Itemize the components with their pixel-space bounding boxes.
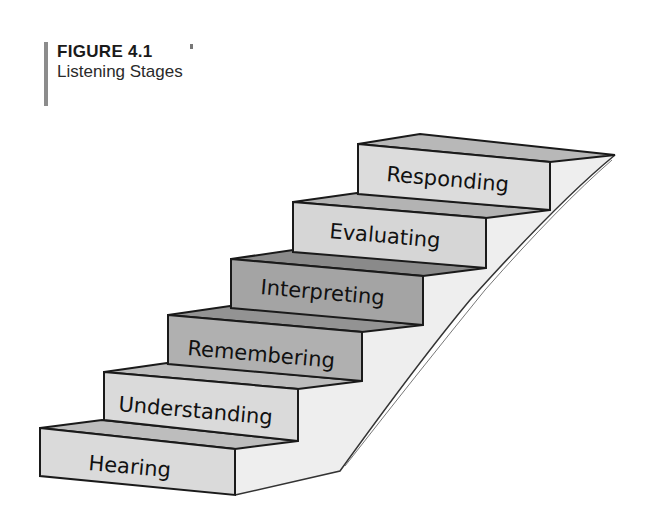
- staircase-diagram: Hearing Understanding Remembering Interp…: [0, 0, 650, 524]
